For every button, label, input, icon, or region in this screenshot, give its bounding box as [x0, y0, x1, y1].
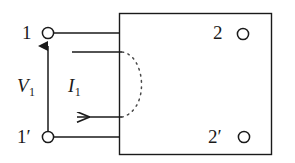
current-symbol: I [68, 75, 74, 96]
two-port-network-figure: 1 1′ 2 2′ V1 I1 [0, 0, 295, 163]
label-current-i1: I1 [68, 76, 80, 95]
label-terminal-1: 1 [22, 23, 32, 42]
prime-mark-icon: ′ [218, 126, 222, 147]
label-terminal-2-prime: 2′ [208, 127, 222, 146]
voltage-subscript: 1 [29, 85, 35, 99]
label-voltage-v1: V1 [17, 76, 35, 95]
label-terminal-2-prime-base: 2 [208, 126, 218, 147]
terminal-2-circle [237, 28, 248, 39]
circuit-diagram-canvas [0, 0, 295, 163]
current-subscript: 1 [75, 85, 81, 99]
terminal-1-prime-circle [42, 131, 53, 142]
terminal-1-circle [42, 27, 53, 38]
prime-mark-icon: ′ [27, 126, 31, 147]
label-terminal-2: 2 [213, 23, 223, 42]
terminal-2-prime-circle [238, 131, 249, 142]
label-terminal-1-prime-base: 1 [17, 126, 27, 147]
voltage-symbol: V [17, 75, 29, 96]
label-terminal-1-prime: 1′ [17, 127, 31, 146]
